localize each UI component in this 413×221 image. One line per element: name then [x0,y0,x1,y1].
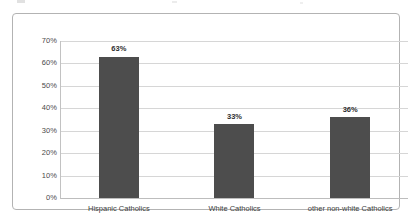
bar[interactable] [99,57,139,198]
bar[interactable] [214,124,254,198]
x-axis-category-label: White Catholics [208,204,260,213]
scan-artifact [17,0,25,3]
y-axis-tick-label: 0% [15,194,57,202]
y-axis-tick-label: 40% [15,104,57,112]
x-axis-category-label: other non-white Catholics [308,204,393,213]
bar-value-label: 36% [343,106,358,114]
bar-value-label: 33% [227,113,242,121]
y-axis-tick-label: 20% [15,149,57,157]
y-axis-ticks: 70%60%50%40%30%20%10%0% [13,41,57,198]
y-axis-tick-label: 50% [15,82,57,90]
bar[interactable] [330,117,370,198]
bar-value-label: 63% [111,45,126,53]
x-axis-category-label: Hispanic Catholics [88,204,150,213]
bar-slot: 33% [177,41,293,198]
x-axis-category-labels: Hispanic CatholicsWhite Catholicsother n… [61,204,408,218]
scan-artifact [172,1,177,3]
axis-baseline [61,198,408,199]
scan-artifact [300,2,303,4]
y-axis-tick-label: 60% [15,59,57,67]
y-axis-tick-label: 10% [15,172,57,180]
chart-screenshot: 70%60%50%40%30%20%10%0% 63%33%36% Hispan… [0,0,413,221]
y-axis-tick-label: 30% [15,127,57,135]
chart-frame: 70%60%50%40%30%20%10%0% 63%33%36% Hispan… [12,13,400,210]
bar-slot: 63% [61,41,177,198]
y-axis-tick-label: 70% [15,37,57,45]
bar-series: 63%33%36% [61,41,408,198]
bar-slot: 36% [292,41,408,198]
